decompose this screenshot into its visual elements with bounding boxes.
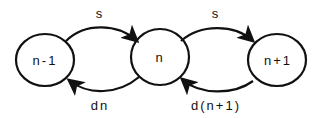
edge-s-left xyxy=(66,27,136,41)
edge-label-d-n-plus-1: d(n+1) xyxy=(191,98,241,113)
node-label-n-plus-1: n+1 xyxy=(264,53,292,68)
node-label-n: n xyxy=(155,50,164,65)
edge-label-s-right: s xyxy=(212,6,221,21)
edge-dn xyxy=(70,77,139,91)
node-label-n-minus-1: n-1 xyxy=(33,53,58,68)
edge-s-right xyxy=(181,28,252,41)
edge-d-n-plus-1 xyxy=(183,80,253,91)
edge-label-dn: dn xyxy=(91,98,109,113)
edge-label-s-left: s xyxy=(96,6,105,21)
